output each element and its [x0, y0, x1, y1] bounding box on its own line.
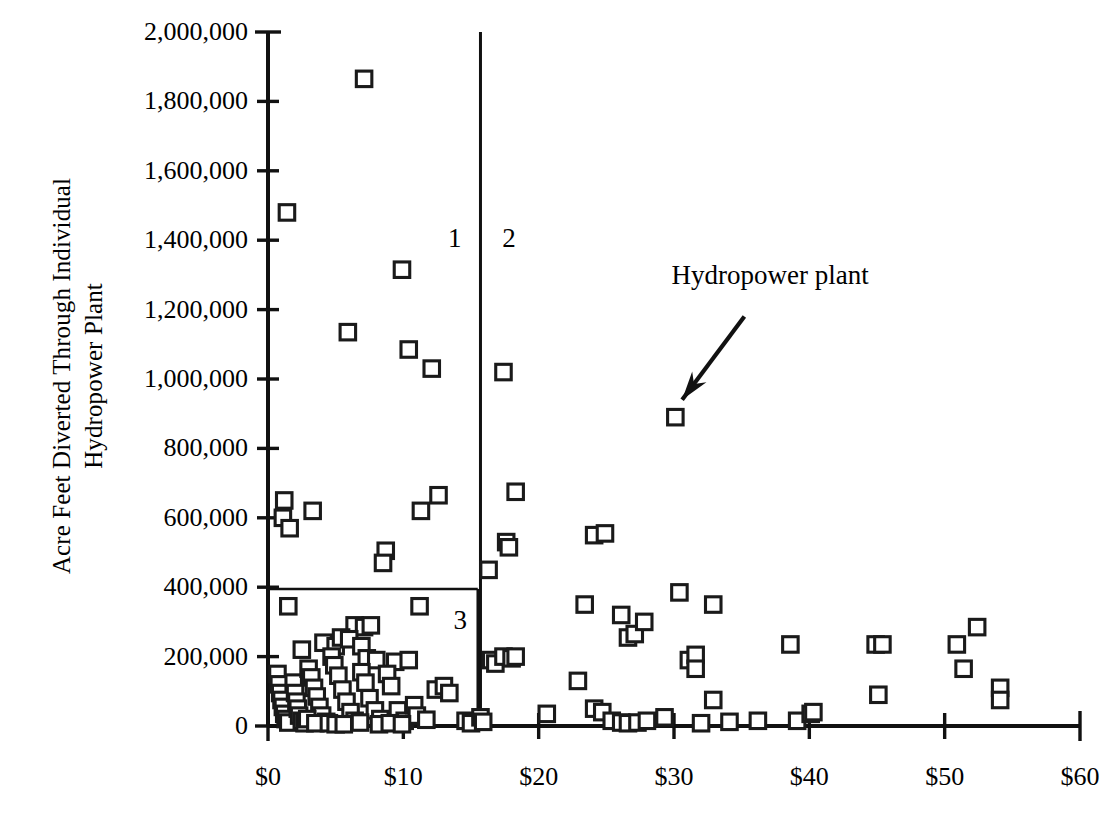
data-point: [419, 712, 435, 728]
data-point: [657, 710, 673, 726]
scatter-chart-figure: Acre Feet Diverted Through Individual Hy…: [0, 0, 1110, 827]
data-point: [613, 607, 629, 623]
callout-arrow-icon: [682, 317, 744, 400]
data-point: [639, 713, 655, 729]
data-point: [412, 599, 428, 615]
data-point: [431, 487, 447, 503]
callout-label: Hydropower plant: [671, 261, 868, 288]
data-point: [570, 673, 586, 689]
data-point: [577, 597, 593, 613]
data-point: [394, 262, 410, 278]
data-point: [496, 364, 512, 380]
region-1-label: 1: [448, 225, 462, 252]
data-point: [693, 715, 709, 731]
data-point: [358, 675, 374, 691]
data-point: [597, 526, 613, 542]
region-2-label: 2: [502, 225, 516, 252]
data-point: [688, 661, 704, 677]
data-point: [282, 520, 298, 536]
data-point: [356, 71, 372, 87]
data-point: [956, 661, 972, 677]
data-point: [340, 324, 356, 340]
data-point: [722, 714, 738, 730]
data-point: [336, 717, 352, 733]
data-point: [352, 715, 368, 731]
data-point: [539, 706, 555, 722]
data-point: [508, 649, 524, 665]
data-point: [401, 342, 417, 358]
data-point: [969, 619, 985, 635]
data-point: [949, 637, 965, 653]
data-point: [394, 717, 410, 733]
data-point: [705, 692, 721, 708]
data-point: [481, 562, 497, 578]
data-point: [501, 540, 516, 556]
data-point: [281, 599, 297, 615]
data-point: [636, 614, 652, 630]
data-point: [383, 678, 399, 694]
data-point: [705, 597, 721, 613]
data-point: [672, 585, 688, 601]
data-point: [363, 618, 379, 634]
data-point: [294, 642, 310, 658]
data-point: [783, 637, 799, 653]
data-point: [871, 687, 887, 703]
data-point: [508, 484, 524, 500]
data-point: [401, 652, 417, 668]
data-point: [750, 713, 766, 729]
data-point: [992, 692, 1008, 708]
data-point: [424, 361, 440, 377]
data-points: [270, 71, 1008, 732]
data-point: [375, 555, 391, 571]
callout-arrow-head: [682, 372, 706, 400]
data-point: [442, 685, 458, 701]
data-point: [875, 637, 891, 653]
data-point: [668, 409, 684, 425]
data-point: [413, 503, 429, 519]
data-point: [806, 704, 822, 720]
data-point: [276, 493, 292, 509]
data-point: [305, 503, 321, 519]
data-point: [279, 205, 295, 221]
plot-area: [0, 0, 1110, 827]
region-3-label: 3: [453, 607, 467, 634]
data-point: [475, 714, 491, 730]
